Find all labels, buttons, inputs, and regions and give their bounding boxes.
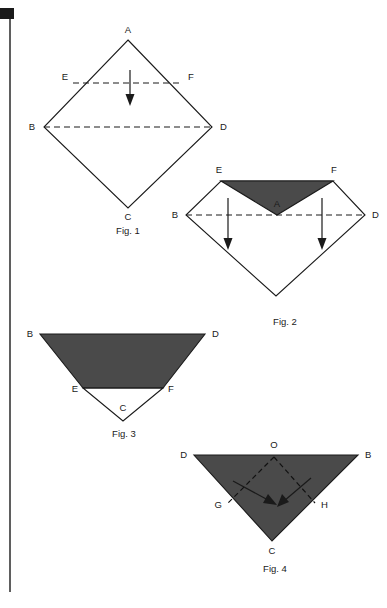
folding-diagram: A B C D E F Fig. 1 E F A B D: [0, 0, 387, 608]
fig4-caption: Fig. 4: [263, 563, 287, 574]
fig3-shaded-trapezoid-BDFE: [40, 334, 205, 388]
figure-3: B D E F C Fig. 3: [27, 328, 219, 439]
fig4-vertex-label-H: H: [321, 499, 328, 510]
fig2-vertex-label-A: A: [274, 198, 281, 209]
fig4-vertex-label-O: O: [270, 439, 277, 450]
fig2-vertex-label-D: D: [372, 209, 379, 220]
fig3-vertex-label-F: F: [168, 383, 174, 394]
fig2-caption: Fig. 2: [273, 316, 297, 327]
fig3-vertex-label-B: B: [27, 328, 33, 339]
fig2-vertex-label-E: E: [216, 164, 222, 175]
fig2-vertex-label-B: B: [172, 209, 178, 220]
fig1-vertex-label-C: C: [125, 211, 132, 222]
fig4-shaded-triangle-DBC: [194, 455, 358, 541]
fig1-vertex-label-B: B: [29, 121, 35, 132]
figure-4: D B O G H C Fig. 4: [180, 439, 371, 574]
fig1-outline-ABCD: [44, 40, 212, 208]
fig2-vertex-label-F: F: [331, 164, 337, 175]
fig1-vertex-label-F: F: [188, 71, 194, 82]
fig4-vertex-label-B: B: [365, 449, 371, 460]
fig4-vertex-label-G: G: [215, 499, 222, 510]
diagram-page: A B C D E F Fig. 1 E F A B D: [0, 0, 387, 608]
fig1-vertex-label-E: E: [62, 71, 68, 82]
fig1-vertex-label-D: D: [220, 121, 227, 132]
fig3-vertex-label-D: D: [212, 328, 219, 339]
fig1-caption: Fig. 1: [116, 225, 140, 236]
fig4-vertex-label-D: D: [180, 449, 187, 460]
fig1-fold-arrow-down: [126, 70, 135, 106]
fig3-vertex-label-E: E: [72, 383, 78, 394]
fig3-vertex-label-C: C: [120, 402, 127, 413]
fig2-fold-arrow-right-down: [318, 198, 327, 250]
fig4-vertex-label-C: C: [269, 545, 276, 556]
fig3-caption: Fig. 3: [112, 428, 136, 439]
figure-2: E F A B D Fig. 2: [172, 164, 379, 327]
page-corner-mark: [0, 8, 14, 19]
fig2-fold-arrow-left-down: [224, 198, 233, 250]
fig1-vertex-label-A: A: [125, 24, 132, 35]
